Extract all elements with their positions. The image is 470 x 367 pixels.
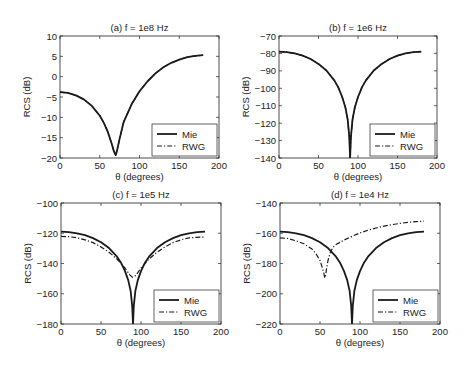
y-axis-label: RCS (dB): [241, 243, 252, 284]
chart-title: (b) f = 1e6 Hz: [329, 22, 387, 33]
x-axis-label: θ (degrees): [334, 171, 383, 182]
figure: 050100150200−20−15−10−50510(a) f = 1e8 H…: [0, 0, 470, 367]
x-tick-label: 200: [429, 160, 445, 171]
y-tick-label: 5: [52, 51, 57, 62]
y-axis-label: RCS (dB): [240, 77, 251, 118]
y-tick-label: −140: [37, 258, 58, 269]
x-tick-label: 150: [173, 326, 189, 337]
chart-title: (c) f = 1e5 Hz: [112, 189, 170, 200]
legend-label-mie: Mie: [400, 129, 415, 140]
y-tick-label: −180: [256, 258, 277, 269]
y-tick-label: −100: [37, 198, 58, 209]
x-tick-label: 100: [350, 160, 366, 171]
x-tick-label: 50: [313, 160, 324, 171]
legend-label-rwg: RWG: [403, 307, 426, 318]
y-tick-label: −110: [255, 100, 276, 111]
y-tick-label: −100: [255, 83, 276, 94]
y-tick-label: 10: [46, 31, 57, 42]
legend-label-rwg: RWG: [184, 307, 207, 318]
legend-label-mie: Mie: [182, 129, 197, 140]
legend: MieRWG: [152, 124, 217, 156]
y-tick-label: −70: [260, 31, 276, 42]
y-tick-label: −20: [41, 153, 57, 164]
x-tick-label: 0: [277, 326, 282, 337]
x-tick-label: 200: [213, 326, 229, 337]
y-tick-label: −200: [256, 288, 277, 299]
y-tick-label: −160: [37, 288, 58, 299]
x-axis-label: θ (degrees): [117, 337, 166, 348]
subplot-d: 050100150200−220−200−180−160−140(d) f = …: [241, 189, 448, 348]
legend: MieRWG: [370, 124, 435, 156]
x-tick-label: 100: [133, 326, 149, 337]
x-tick-label: 100: [132, 160, 148, 171]
y-tick-label: −90: [260, 65, 276, 76]
subplot-a: 050100150200−20−15−10−50510(a) f = 1e8 H…: [21, 22, 227, 182]
x-axis-label: θ (degrees): [336, 337, 385, 348]
x-axis-label: θ (degrees): [115, 171, 164, 182]
subplot-b: 050100150200−140−130−120−110−100−90−80−7…: [240, 22, 445, 182]
x-tick-label: 100: [352, 326, 368, 337]
y-tick-label: −180: [37, 319, 58, 330]
legend-label-mie: Mie: [184, 295, 199, 306]
x-tick-label: 50: [315, 326, 326, 337]
subplot-c: 050100150200−180−160−140−120−100(c) f = …: [22, 189, 229, 348]
x-tick-label: 0: [57, 160, 62, 171]
y-tick-label: −15: [41, 132, 57, 143]
y-tick-label: −220: [256, 319, 277, 330]
y-tick-label: −120: [255, 118, 276, 129]
legend-label-mie: Mie: [403, 295, 418, 306]
y-tick-label: 0: [52, 71, 57, 82]
legend: MieRWG: [373, 290, 438, 322]
x-tick-label: 200: [432, 326, 448, 337]
y-tick-label: −130: [255, 135, 276, 146]
legend: MieRWG: [154, 290, 219, 322]
chart-title: (d) f = 1e4 Hz: [331, 189, 389, 200]
y-tick-label: −140: [256, 198, 277, 209]
x-tick-label: 0: [58, 326, 63, 337]
x-tick-label: 150: [392, 326, 408, 337]
y-axis-label: RCS (dB): [22, 243, 33, 284]
x-tick-label: 150: [171, 160, 187, 171]
x-tick-label: 150: [390, 160, 406, 171]
x-tick-label: 200: [211, 160, 227, 171]
y-tick-label: −160: [256, 228, 277, 239]
y-tick-label: −5: [46, 92, 57, 103]
legend-label-rwg: RWG: [182, 141, 205, 152]
y-tick-label: −120: [37, 228, 58, 239]
x-tick-label: 50: [96, 326, 107, 337]
y-axis-label: RCS (dB): [21, 77, 32, 118]
y-tick-label: −80: [260, 48, 276, 59]
x-tick-label: 0: [276, 160, 281, 171]
chart-title: (a) f = 1e8 Hz: [111, 22, 169, 33]
y-tick-label: −10: [41, 112, 57, 123]
y-tick-label: −140: [255, 153, 276, 164]
legend-label-rwg: RWG: [400, 141, 423, 152]
x-tick-label: 50: [94, 160, 105, 171]
